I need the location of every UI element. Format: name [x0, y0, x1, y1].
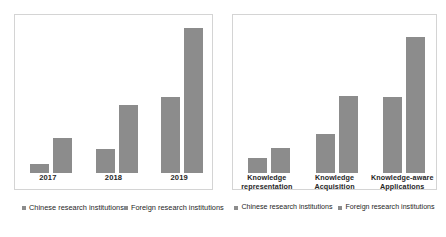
bars-layer-left [15, 15, 212, 173]
category-label: Knowledge Acquisition [301, 173, 369, 191]
legend-right: Chinese research institutions Foreign re… [232, 203, 437, 212]
chart-panel-right: Knowledge representationKnowledge Acquis… [232, 14, 437, 190]
bar-right-c0-s1 [271, 148, 290, 173]
category-label: Knowledge representation [233, 173, 301, 191]
bar-left-c0-s1 [53, 138, 72, 173]
category-axis-left: 201720182019 [15, 173, 212, 182]
figure-root: 201720182019 Knowledge representationKno… [0, 0, 446, 237]
plot-area-right: Knowledge representationKnowledge Acquis… [233, 15, 436, 189]
legend-label: Foreign research institutions [345, 203, 434, 212]
bar-right-c0-s0 [248, 158, 267, 173]
legend-swatch-icon [124, 206, 128, 210]
category-axis-right: Knowledge representationKnowledge Acquis… [233, 173, 436, 191]
legend-entry-chinese-left[interactable]: Chinese research institutions [22, 203, 124, 212]
legend-label: Foreign research institutions [131, 203, 224, 212]
legend-label: Chinese research institutions [241, 203, 332, 212]
legend-swatch-icon [234, 206, 238, 210]
legend-swatch-icon [22, 206, 26, 210]
bar-right-c1-s1 [339, 96, 358, 173]
category-label: 2017 [15, 173, 81, 182]
category-label: Knowledge-aware Applications [368, 173, 436, 191]
bar-left-c1-s0 [96, 149, 115, 173]
chart-panel-left: 201720182019 [14, 14, 213, 190]
legend-entry-foreign-left[interactable]: Foreign research institutions [124, 203, 224, 212]
legend-swatch-icon [338, 206, 342, 210]
bar-right-c2-s0 [383, 97, 402, 173]
category-label: 2019 [146, 173, 212, 182]
bars-layer-right [233, 15, 436, 173]
bar-right-c2-s1 [406, 37, 425, 173]
legend-left: Chinese research institutions Foreign re… [14, 203, 213, 212]
bar-right-c1-s0 [316, 134, 335, 173]
bar-left-c2-s1 [184, 28, 203, 173]
bar-left-c1-s1 [119, 105, 138, 173]
plot-area-left: 201720182019 [15, 15, 212, 189]
legend-entry-chinese-right[interactable]: Chinese research institutions [234, 203, 332, 212]
legend-entry-foreign-right[interactable]: Foreign research institutions [338, 203, 434, 212]
bar-left-c2-s0 [161, 97, 180, 173]
category-label: 2018 [81, 173, 147, 182]
bar-left-c0-s0 [30, 164, 49, 173]
legend-label: Chinese research institutions [29, 203, 124, 212]
